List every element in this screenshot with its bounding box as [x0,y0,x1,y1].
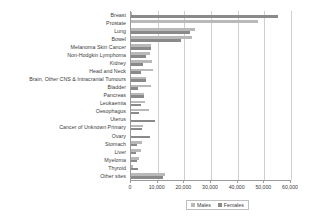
legend-item[interactable]: Females [218,202,244,208]
bar-group [131,132,290,140]
x-tick-label: 30,000 [202,184,218,190]
bar-females [131,39,181,42]
x-tick [263,180,264,183]
bar-group [131,148,290,156]
category-label: Cancer of Unknown Primary [59,124,126,130]
bar-group [131,75,290,83]
bar-group [131,67,290,75]
legend-label: Males [197,202,211,208]
bar-group [131,164,290,172]
bar-group [131,83,290,91]
bar-females [131,47,151,50]
chart-container: BreastProstateLungBowelMelanoma Skin Can… [0,0,311,222]
bar-group [131,100,290,108]
x-tick [157,180,158,183]
bar-group [131,124,290,132]
legend-item[interactable]: Males [191,202,211,208]
plot-area [130,11,290,180]
bar-group [131,43,290,51]
legend-swatch-icon [191,203,195,207]
category-label: Myeloma [104,157,126,163]
bar-group [131,116,290,124]
bar-group [131,172,290,180]
category-label: Bowel [111,36,126,42]
bar-group [131,91,290,99]
chart-legend: MalesFemales [186,200,249,210]
category-label: Stomach [105,141,126,147]
category-label: Melanoma Skin Cancer [71,44,126,50]
x-tick [183,180,184,183]
category-label: Pancreas [103,92,126,98]
category-label: Kidney [110,60,126,66]
x-tick [130,180,131,183]
bar-group [131,35,290,43]
x-tick-label: 60,000 [282,184,298,190]
bar-females [131,128,142,131]
bar-group [131,19,290,27]
category-label: Breast [111,12,126,18]
bar-females [131,55,146,58]
bar-females [131,160,137,163]
legend-swatch-icon [218,203,222,207]
bar-group [131,27,290,35]
bar-females [131,87,138,90]
bar-group [131,51,290,59]
category-axis-labels: BreastProstateLungBowelMelanoma Skin Can… [0,11,128,180]
bar-females [131,152,136,155]
category-label: Brain, Other CNS & Intracranial Tumours [29,76,126,82]
category-label: Non-Hodgkin Lymphoma [67,52,126,58]
bar-females [131,104,141,107]
category-label: Prostate [106,20,126,26]
bar-females [131,168,138,171]
bar-group [131,108,290,116]
category-label: Head and Neck [89,68,126,74]
bar-group [131,59,290,67]
category-label: Oesophagus [96,108,126,114]
bar-females [131,136,150,139]
category-label: Liver [114,149,126,155]
category-label: Thyroid [108,165,126,171]
bar-females [131,112,139,115]
category-label: Other sites [100,173,126,179]
bar-females [131,63,143,66]
bar-females [131,144,137,147]
bar-females [131,120,155,123]
bar-group [131,140,290,148]
bar-females [131,79,146,82]
x-tick-label: 0 [129,184,132,190]
category-label: Bladder [108,84,126,90]
bar-males [131,20,258,23]
x-tick-label: 20,000 [175,184,191,190]
x-tick [237,180,238,183]
category-label: Ovary [112,133,126,139]
category-label: Lung [114,28,126,34]
bar-females [131,31,190,34]
x-tick [290,180,291,183]
bar-group [131,11,290,19]
bar-females [131,15,278,18]
legend-label: Females [224,202,244,208]
bar-females [131,95,144,98]
x-tick [210,180,211,183]
x-tick-label: 40,000 [229,184,245,190]
gridline [291,11,292,180]
category-label: Leukaemia [100,100,126,106]
category-label: Uterus [110,116,126,122]
x-tick-label: 50,000 [255,184,271,190]
bar-females [131,71,141,74]
bar-females [131,176,163,179]
bar-group [131,156,290,164]
x-tick-label: 10,000 [149,184,165,190]
